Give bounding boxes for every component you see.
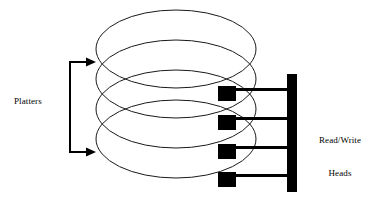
platters-bracket <box>70 58 96 157</box>
head-block-2 <box>218 115 236 130</box>
read-write-head-assembly <box>218 74 297 192</box>
read-write-heads-label-line2: Heads <box>309 168 371 179</box>
head-block-3 <box>218 144 236 159</box>
head-arm-2 <box>236 117 287 120</box>
read-write-heads-label: Read/Write Heads <box>309 113 371 201</box>
bracket-path <box>70 62 89 152</box>
actuator-vertical-bar <box>287 74 297 192</box>
platter-ellipse-1 <box>96 10 256 88</box>
disk-drive-diagram: Platters Read/Write Heads <box>0 0 376 214</box>
platter-ellipse-3 <box>96 70 256 148</box>
platter-ellipse-4 <box>96 100 256 178</box>
head-block-4 <box>218 172 236 187</box>
read-write-heads-label-line1: Read/Write <box>309 135 371 146</box>
platter-ellipse-2 <box>96 40 256 118</box>
head-arm-1 <box>236 88 287 91</box>
platters-label: Platters <box>14 96 42 107</box>
head-block-1 <box>218 86 236 101</box>
head-arm-4 <box>236 174 287 177</box>
bracket-arrow-bottom-icon <box>86 148 96 157</box>
bracket-arrow-top-icon <box>86 58 96 67</box>
head-arm-3 <box>236 146 287 149</box>
